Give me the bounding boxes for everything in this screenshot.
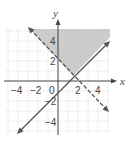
x-tick-label: 4 — [95, 85, 101, 96]
y-tick-label: −2 — [45, 96, 57, 107]
y-axis-label: y — [52, 7, 58, 19]
y-tick-label: 2 — [50, 56, 56, 67]
inequality-graph: −4 −2 0 2 4 4 2 −2 −4 x y — [0, 0, 131, 141]
x-tick-label: −2 — [30, 85, 42, 96]
y-tick-label: 4 — [50, 36, 56, 47]
x-tick-label: 0 — [49, 85, 55, 96]
x-tick-label: 2 — [75, 85, 81, 96]
x-axis-label: x — [119, 75, 125, 87]
x-tick-label: −4 — [11, 85, 23, 96]
x-axis-arrow-icon — [111, 79, 117, 84]
y-axis-arrow-icon — [56, 19, 61, 25]
dashed-line-arrow-bottom-icon — [103, 106, 110, 113]
y-tick-label: −4 — [45, 117, 57, 128]
